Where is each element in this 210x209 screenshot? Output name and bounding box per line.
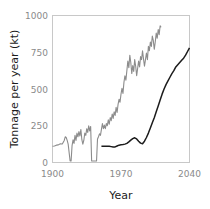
- y-axis-title: Tonnage per year (kt): [8, 30, 21, 150]
- x-axis-title: Year: [108, 189, 133, 202]
- ytick-label-0: 0: [42, 158, 48, 168]
- xtick-label-2040: 2040: [178, 169, 201, 179]
- xtick-label-1900: 1900: [41, 169, 64, 179]
- ytick-label-500: 500: [31, 85, 48, 95]
- line-chart: 1000 750 500 250 0 1900 1970 2040 Year T…: [0, 0, 210, 209]
- ytick-label-1000: 1000: [25, 11, 48, 21]
- series-group: [53, 26, 190, 161]
- ytick-label-250: 250: [31, 121, 48, 131]
- chart-container: 1000 750 500 250 0 1900 1970 2040 Year T…: [0, 0, 210, 209]
- xtick-label-1970: 1970: [110, 169, 133, 179]
- ytick-label-750: 750: [31, 48, 48, 58]
